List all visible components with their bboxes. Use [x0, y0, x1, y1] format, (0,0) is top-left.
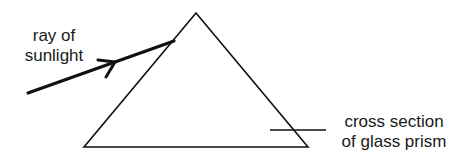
prism-label-line-1: cross section: [330, 112, 457, 132]
glass-prism-label: cross section of glass prism: [330, 112, 457, 152]
ray-of-sunlight-label: ray of sunlight: [23, 26, 85, 66]
prism-label-line-2: of glass prism: [330, 132, 457, 152]
prism-triangle: [84, 13, 308, 147]
ray-label-line-1: ray of: [23, 26, 85, 46]
ray-label-line-2: sunlight: [23, 46, 85, 66]
